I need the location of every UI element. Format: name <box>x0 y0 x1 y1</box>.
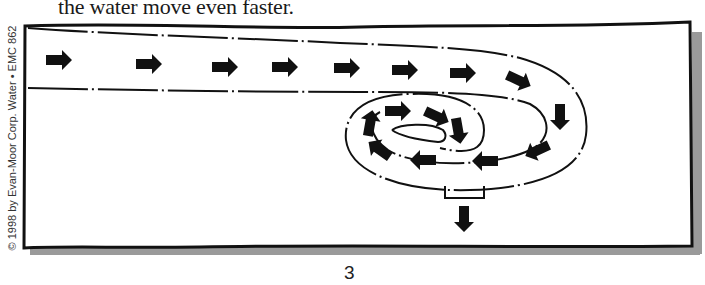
page-number: 3 <box>344 262 355 284</box>
diagram-frame <box>24 22 692 248</box>
water-flow-diagram <box>0 0 705 285</box>
